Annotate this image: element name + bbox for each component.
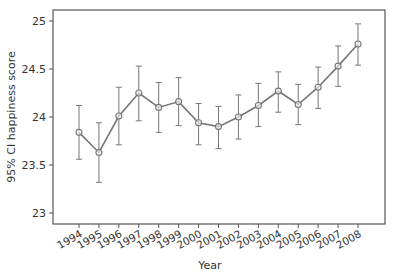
y-tick-label: 24 bbox=[32, 111, 46, 124]
data-point-marker bbox=[76, 129, 82, 135]
x-axis-title: Year bbox=[197, 259, 222, 272]
data-point-marker bbox=[96, 150, 102, 156]
y-axis-title: 95% CI happiness score bbox=[5, 51, 18, 183]
y-tick-label: 24.5 bbox=[22, 63, 47, 76]
y-axis-label: 95% CI happiness score bbox=[5, 51, 18, 183]
data-point-marker bbox=[235, 114, 241, 120]
data-point-marker bbox=[315, 84, 321, 90]
data-point-marker bbox=[255, 102, 261, 108]
data-point-marker bbox=[136, 90, 142, 96]
y-tick-label: 23 bbox=[32, 207, 46, 220]
data-point-marker bbox=[216, 124, 222, 130]
y-tick-label: 25 bbox=[32, 15, 46, 28]
data-point-marker bbox=[116, 113, 122, 119]
y-axis-ticks: 2323.52424.525 bbox=[22, 15, 54, 220]
y-tick-label: 23.5 bbox=[22, 159, 47, 172]
data-point-marker bbox=[335, 63, 341, 69]
data-point-marker bbox=[295, 102, 301, 108]
data-point-marker bbox=[196, 120, 202, 126]
error-bar-line-chart: 95% CI happiness score Year 2323.52424.5… bbox=[0, 0, 393, 276]
data-point-marker bbox=[156, 104, 162, 110]
error-bars bbox=[76, 24, 361, 182]
data-point-marker bbox=[275, 88, 281, 94]
x-axis-ticks: 1994199519961997199819992000200120022003… bbox=[55, 224, 363, 251]
data-point-marker bbox=[355, 41, 361, 47]
data-point-marker bbox=[176, 99, 182, 105]
